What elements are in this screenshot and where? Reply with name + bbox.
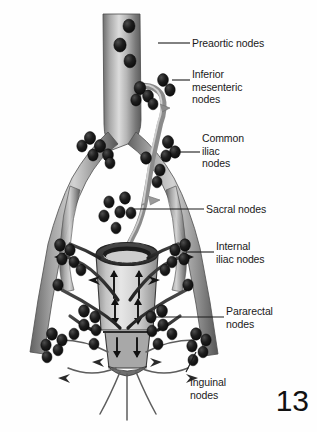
lymph-node <box>180 239 191 251</box>
rectum-and-anal-canal <box>96 243 158 377</box>
sacral-node-group <box>99 192 136 234</box>
lymph-node <box>88 149 98 161</box>
lymph-node <box>115 206 125 218</box>
label-inferior-mesenteric: Inferior mesenteric nodes <box>192 68 242 106</box>
label-sacral: Sacral nodes <box>206 203 266 216</box>
rectum-lumen-inner <box>106 251 148 263</box>
label-pararectal: Pararectal nodes <box>226 305 273 330</box>
lymph-node <box>42 351 52 363</box>
arrowhead-perineal-right <box>150 358 162 367</box>
label-preaortic: Preaortic nodes <box>192 37 264 50</box>
lymph-node <box>147 325 157 337</box>
lymph-node <box>111 222 121 234</box>
abdominal-aorta <box>103 14 141 150</box>
inguinal-path-left-lower <box>68 368 116 373</box>
lymph-node <box>155 164 165 176</box>
perineal-fan-left <box>100 372 120 414</box>
lymph-node <box>79 305 90 317</box>
lymph-node <box>131 94 141 106</box>
lymph-node <box>76 264 86 276</box>
perineal-fan-right <box>136 372 156 414</box>
lymph-node <box>157 305 168 317</box>
label-common-iliac: Common iliac nodes <box>202 132 244 170</box>
lymph-node <box>124 54 136 68</box>
sacral-artery-tip <box>148 196 160 205</box>
lymph-node <box>90 311 100 323</box>
lymphatic-drainage-figure <box>0 0 317 432</box>
lymph-node <box>41 339 51 351</box>
lymph-node <box>114 38 126 52</box>
lymph-node <box>183 279 193 291</box>
lymph-node <box>165 84 175 96</box>
label-internal-iliac: Internal iliac nodes <box>216 240 265 265</box>
label-inguinal: Inguinal nodes <box>190 376 226 401</box>
anal-canal <box>105 332 150 368</box>
lymph-node <box>104 196 114 208</box>
lymph-node <box>198 346 208 358</box>
lymph-node <box>153 338 163 350</box>
lymph-node <box>91 324 101 336</box>
lymph-node <box>148 98 158 110</box>
lymph-node <box>201 334 211 346</box>
lymph-node <box>65 244 75 256</box>
lymph-node <box>179 253 189 265</box>
lymph-node <box>77 140 87 152</box>
lymph-node <box>123 19 135 33</box>
lymph-node <box>89 338 99 350</box>
arrowhead-inguinal-left <box>58 374 70 383</box>
arrowhead-perineal-left <box>92 358 104 367</box>
lymph-node <box>152 176 162 188</box>
lymph-node <box>167 328 177 340</box>
lymph-node <box>158 319 168 331</box>
lymph-node <box>187 340 197 352</box>
lymph-node <box>162 136 173 149</box>
lymph-node <box>47 328 58 340</box>
lymph-node <box>141 152 152 164</box>
page-number: 13 <box>276 384 309 418</box>
inguinal-path-right-lower <box>140 368 188 373</box>
lymph-node <box>160 264 170 276</box>
lymph-node <box>161 150 171 162</box>
lymph-node <box>53 279 63 291</box>
lymph-node <box>57 253 67 265</box>
lymph-node <box>53 344 63 356</box>
lymph-node <box>69 328 79 340</box>
lymph-node <box>79 319 89 331</box>
lymph-node <box>105 157 115 169</box>
lymph-node <box>55 239 66 251</box>
lymph-node <box>170 244 180 256</box>
lymph-node <box>120 192 131 204</box>
lymph-node <box>191 328 202 340</box>
lymph-node <box>158 74 169 87</box>
lymph-node <box>99 210 109 222</box>
